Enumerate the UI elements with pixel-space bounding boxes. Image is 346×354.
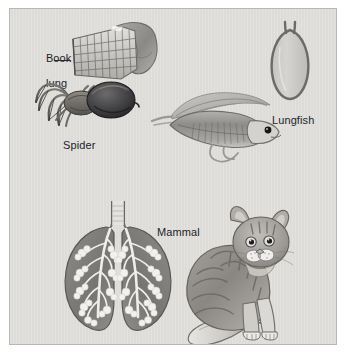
figure-root: Book lung bbox=[0, 0, 346, 354]
label-spider: Spider bbox=[63, 139, 95, 152]
book-lung-leader-line bbox=[54, 60, 71, 61]
mammal-lungs-icon bbox=[54, 199, 182, 337]
lungfish-icon bbox=[150, 87, 290, 169]
spider-icon bbox=[26, 72, 144, 138]
cat-icon bbox=[165, 204, 301, 345]
label-book-lung-line1: Book bbox=[46, 52, 71, 64]
illustration-panel: Book lung bbox=[9, 8, 337, 345]
